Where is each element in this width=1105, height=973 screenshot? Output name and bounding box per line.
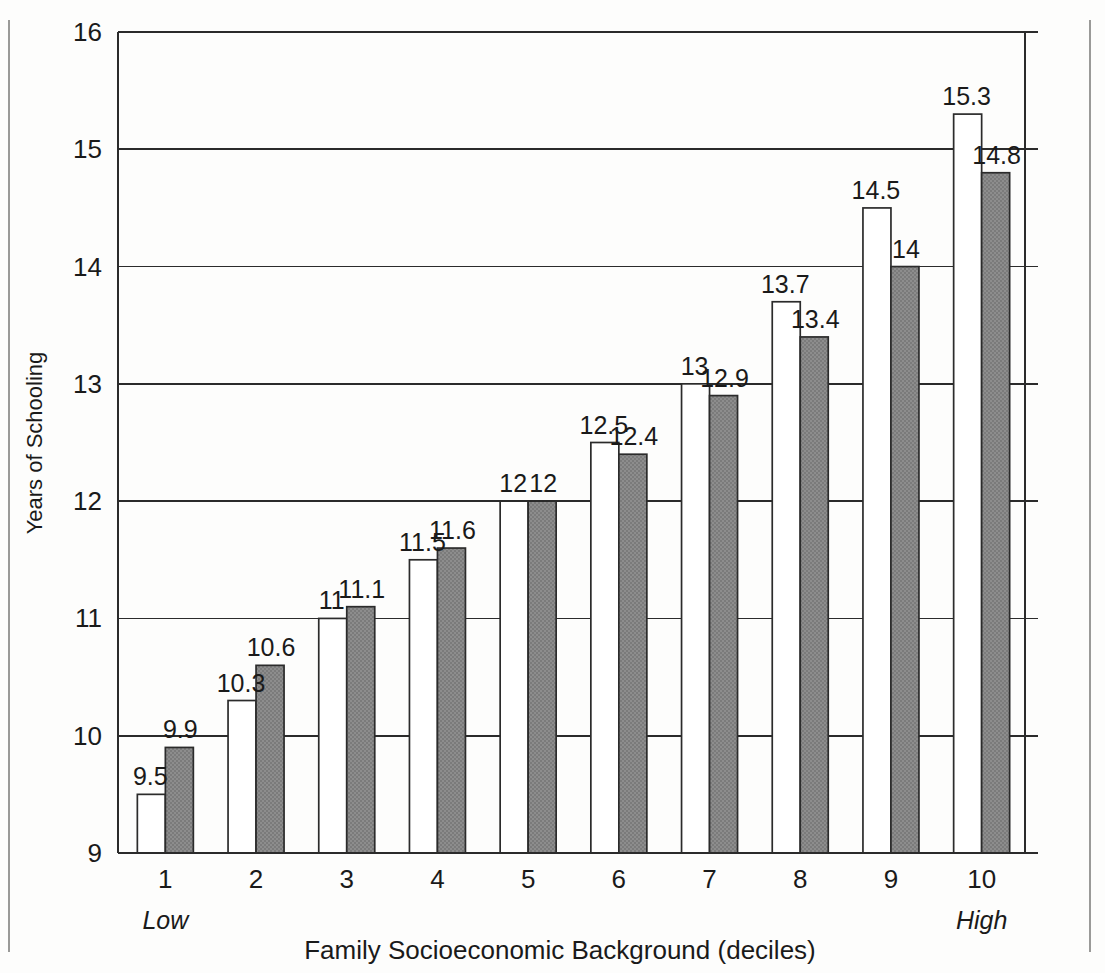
value-label-shaded-6: 12.4 xyxy=(610,422,659,450)
value-label-shaded-10: 14.8 xyxy=(972,141,1021,169)
x-tick-label-9: 9 xyxy=(884,864,898,894)
y-tick-label-15: 15 xyxy=(73,134,102,164)
y-tick-label-16: 16 xyxy=(73,17,102,47)
x-tick-label-3: 3 xyxy=(340,864,354,894)
bar-shaded-decile-3 xyxy=(347,607,375,853)
value-label-shaded-9: 14 xyxy=(892,235,920,263)
value-label-shaded-3: 11.1 xyxy=(338,575,385,603)
bar-open-decile-1 xyxy=(137,794,165,853)
bar-open-decile-5 xyxy=(500,501,528,853)
y-tick-label-11: 11 xyxy=(75,603,102,633)
x-tick-label-5: 5 xyxy=(521,864,535,894)
bar-open-decile-10 xyxy=(954,114,982,853)
y-axis-title: Years of Schooling xyxy=(22,352,47,535)
x-axis-title: Family Socioeconomic Background (deciles… xyxy=(304,935,816,965)
x-tick-label-10: 10 xyxy=(967,864,996,894)
bar-open-decile-3 xyxy=(319,618,347,853)
x-tick-label-8: 8 xyxy=(793,864,807,894)
y-tick-label-9: 9 xyxy=(88,838,102,868)
years-of-schooling-bar-chart: 910111213141516 9.59.910.310.61111.111.5… xyxy=(0,0,1105,973)
bar-open-decile-2 xyxy=(228,701,256,853)
value-label-shaded-7: 12.9 xyxy=(700,364,749,392)
bar-shaded-decile-9 xyxy=(891,267,919,853)
value-label-shaded-2: 10.6 xyxy=(247,633,296,661)
y-tick-label-10: 10 xyxy=(73,721,102,751)
bar-shaded-decile-6 xyxy=(619,454,647,853)
value-label-open-8: 13.7 xyxy=(761,270,810,298)
value-label-shaded-8: 13.4 xyxy=(791,305,840,333)
y-tick-label-12: 12 xyxy=(73,486,102,516)
x-tick-label-7: 7 xyxy=(702,864,716,894)
bar-open-decile-4 xyxy=(409,560,437,853)
x-tick-group: 12345678910 xyxy=(158,864,996,894)
x-axis-anchor-low: Low xyxy=(142,906,190,934)
x-tick-label-4: 4 xyxy=(430,864,444,894)
bar-shaded-decile-10 xyxy=(982,173,1010,853)
bar-open-decile-6 xyxy=(591,443,619,854)
bar-open-decile-8 xyxy=(772,302,800,853)
x-axis-anchor-high: High xyxy=(956,906,1007,934)
value-label-shaded-5: 12 xyxy=(529,469,557,497)
bar-shaded-decile-8 xyxy=(800,337,828,853)
bar-open-decile-7 xyxy=(682,384,710,853)
value-label-open-5: 12 xyxy=(499,469,527,497)
bar-shaded-decile-4 xyxy=(437,548,465,853)
value-label-open-2: 10.3 xyxy=(217,669,266,697)
bar-shaded-decile-7 xyxy=(710,396,738,853)
x-tick-label-6: 6 xyxy=(612,864,626,894)
bar-shaded-decile-5 xyxy=(528,501,556,853)
value-label-open-10: 15.3 xyxy=(942,82,991,110)
bars-group xyxy=(137,114,1009,853)
bar-open-decile-9 xyxy=(863,208,891,853)
chart-page: 910111213141516 9.59.910.310.61111.111.5… xyxy=(0,0,1105,973)
y-tick-label-13: 13 xyxy=(73,369,102,399)
value-label-open-1: 9.5 xyxy=(133,762,168,790)
x-tick-label-1: 1 xyxy=(158,864,172,894)
x-tick-label-2: 2 xyxy=(249,864,263,894)
value-label-shaded-4: 11.6 xyxy=(429,516,476,544)
value-label-shaded-1: 9.9 xyxy=(163,715,198,743)
value-label-open-9: 14.5 xyxy=(852,176,901,204)
y-tick-label-14: 14 xyxy=(73,252,102,282)
bar-shaded-decile-1 xyxy=(165,747,193,853)
